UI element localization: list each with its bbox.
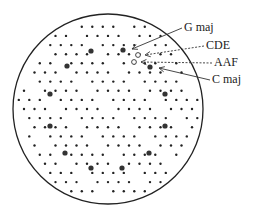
- arrow-g_maj: [132, 28, 182, 49]
- lattice-dot: [81, 62, 83, 64]
- lattice-dot: [133, 26, 135, 28]
- lattice-dot: [81, 154, 83, 156]
- lattice-dot: [91, 154, 93, 156]
- lattice-dot: [102, 135, 104, 137]
- lattice-dot: [54, 90, 56, 92]
- lattice-dot: [91, 99, 93, 101]
- lattice-dot: [54, 126, 56, 128]
- lattice-dot: [44, 126, 46, 128]
- lattice-dot: [180, 90, 182, 92]
- lattice-dot: [86, 126, 88, 128]
- lattice-dot: [112, 117, 114, 119]
- lattice-dot: [138, 163, 140, 165]
- lattice-dot: [112, 80, 114, 82]
- lattice-dot: [107, 144, 109, 146]
- lattice-dot: [75, 71, 77, 73]
- lattice-dot: [175, 135, 177, 137]
- lattice-dot: [65, 144, 67, 146]
- lattice-dot: [186, 117, 188, 119]
- lattice-dot: [96, 90, 98, 92]
- lattice-dot: [123, 99, 125, 101]
- lattice-dot: [117, 144, 119, 146]
- lattice-dot: [75, 53, 77, 55]
- lattice-dot: [154, 44, 156, 46]
- lattice-dot: [180, 144, 182, 146]
- lattice-dot: [107, 163, 109, 165]
- lattice-dot: [107, 71, 109, 73]
- chord-dot: [147, 64, 152, 69]
- lattice-dot: [39, 99, 41, 101]
- lattice-dot: [138, 35, 140, 37]
- lattice-dot: [123, 80, 125, 82]
- lattice-dot: [133, 154, 135, 156]
- lattice-dot: [154, 172, 156, 174]
- lattice-dot: [112, 190, 114, 192]
- arrow-aaf: [141, 62, 212, 63]
- lattice-dot: [81, 26, 83, 28]
- lattice-dot: [86, 71, 88, 73]
- lattice-dot: [44, 163, 46, 165]
- lattice-dot: [49, 135, 51, 137]
- lattice-dot: [96, 126, 98, 128]
- lattice-dot: [75, 163, 77, 165]
- lattice-dot: [117, 126, 119, 128]
- lattice-dot: [165, 80, 167, 82]
- lattice-dot: [70, 44, 72, 46]
- label-cde: CDE: [206, 38, 230, 53]
- lattice-dot: [75, 144, 77, 146]
- lattice-dot: [123, 190, 125, 192]
- lattice-dot: [138, 144, 140, 146]
- lattice-dot: [117, 35, 119, 37]
- lattice-dot: [149, 181, 151, 183]
- lattice-dot: [149, 108, 151, 110]
- lattice-dot: [39, 117, 41, 119]
- lattice-dot: [81, 135, 83, 137]
- lattice-dot: [159, 71, 161, 73]
- lattice-dot: [81, 44, 83, 46]
- marker-aaf: [132, 60, 137, 65]
- lattice-dot: [159, 181, 161, 183]
- lattice-dot: [180, 108, 182, 110]
- lattice-dot: [149, 35, 151, 37]
- lattice-dot: [44, 90, 46, 92]
- lattice-dot: [91, 62, 93, 64]
- lattice-dot: [159, 163, 161, 165]
- lattice-dot: [86, 35, 88, 37]
- lattice-dot: [65, 126, 67, 128]
- lattice-dot: [70, 190, 72, 192]
- lattice-dot: [107, 90, 109, 92]
- lattice-dot: [91, 117, 93, 119]
- lattice-dot: [123, 135, 125, 137]
- lattice-dot: [81, 99, 83, 101]
- lattice-dot: [91, 26, 93, 28]
- lattice-dot: [81, 117, 83, 119]
- lattice-dot: [175, 154, 177, 156]
- lattice-dot: [39, 62, 41, 64]
- lattice-dot: [117, 53, 119, 55]
- lattice-dot: [70, 99, 72, 101]
- chord-dot: [47, 123, 52, 128]
- arrow-c_maj: [159, 68, 210, 80]
- lattice-dot: [107, 53, 109, 55]
- lattice-dot: [149, 71, 151, 73]
- lattice-dot: [144, 172, 146, 174]
- lattice-dot: [23, 108, 25, 110]
- lattice-dot: [123, 154, 125, 156]
- lattice-dot: [128, 163, 130, 165]
- lattice-dot: [60, 99, 62, 101]
- label-aaf: AAF: [214, 55, 238, 70]
- lattice-dot: [117, 108, 119, 110]
- lattice-dot: [123, 62, 125, 64]
- lattice-dot: [86, 108, 88, 110]
- lattice-dot: [18, 99, 20, 101]
- lattice-dot: [144, 117, 146, 119]
- lattice-dot: [159, 53, 161, 55]
- lattice-dot: [175, 80, 177, 82]
- lattice-dot: [117, 90, 119, 92]
- lattice-dot: [196, 99, 198, 101]
- lattice-dot: [165, 99, 167, 101]
- lattice-dot: [96, 108, 98, 110]
- lattice-dot: [70, 172, 72, 174]
- lattice-dot: [60, 135, 62, 137]
- lattice-dot: [49, 44, 51, 46]
